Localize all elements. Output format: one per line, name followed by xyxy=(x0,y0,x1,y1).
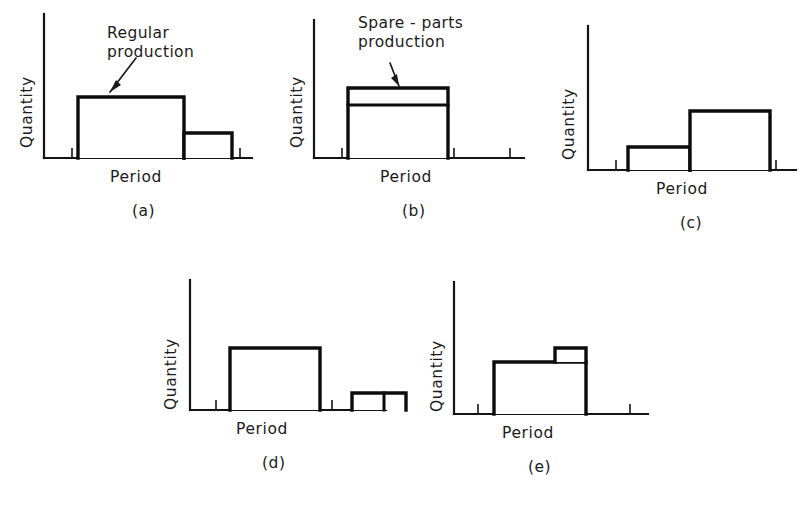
panel-caption-e: (e) xyxy=(528,458,551,476)
panel-caption-a: (a) xyxy=(132,202,155,220)
bar-e-1 xyxy=(494,362,586,414)
leader-arrowhead-b xyxy=(391,74,399,86)
annotation-line-2: production xyxy=(358,33,463,52)
x-axis-label-e: Period xyxy=(502,424,554,442)
bar-c-1 xyxy=(628,147,690,170)
x-axis-label-b: Period xyxy=(380,168,432,186)
bar-e-2 xyxy=(555,348,586,362)
bar-a-2 xyxy=(184,133,232,158)
annotation-regular-production: Regular production xyxy=(107,24,194,62)
annotation-line-1: Spare - parts xyxy=(358,14,463,33)
bar-b-1 xyxy=(348,88,448,158)
bar-d-1 xyxy=(230,348,320,410)
panel-a: Quantity Regular production Period xyxy=(0,0,262,232)
y-axis-label-b: Quantity xyxy=(288,76,306,148)
panel-e: Quantity Period (e) xyxy=(398,262,678,506)
panel-caption-c: (c) xyxy=(680,214,702,232)
annotation-spare-parts: Spare - parts production xyxy=(358,14,463,52)
leader-arrowhead-a xyxy=(110,80,121,92)
panel-b: Quantity Spare - parts production Period… xyxy=(262,0,530,232)
panel-d: Quantity Period (d) xyxy=(140,262,420,506)
x-axis-label-c: Period xyxy=(656,180,708,198)
panel-caption-d: (d) xyxy=(262,454,285,472)
figure-bottom-caption xyxy=(0,499,802,506)
y-axis-label-a: Quantity xyxy=(18,76,36,148)
y-axis-label-c: Quantity xyxy=(560,88,578,160)
figure-root: Quantity Regular production Period xyxy=(0,0,802,506)
y-axis-label-e: Quantity xyxy=(428,340,446,412)
panel-caption-b: (b) xyxy=(402,202,425,220)
x-axis-label-d: Period xyxy=(236,420,288,438)
bar-a-1 xyxy=(78,97,184,158)
y-axis-label-d: Quantity xyxy=(162,338,180,410)
panel-c: Quantity Period (c) xyxy=(530,0,802,245)
annotation-line-1: Regular xyxy=(107,24,194,43)
annotation-line-2: production xyxy=(107,43,194,62)
x-axis-label-a: Period xyxy=(110,168,162,186)
bar-c-2 xyxy=(690,111,770,170)
